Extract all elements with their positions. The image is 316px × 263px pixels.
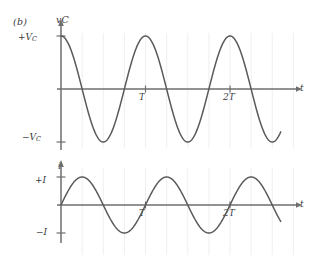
figure-panel-b: (b) vC +VC −VC t T 2T i +I −I t T 2T bbox=[0, 0, 316, 263]
chart-current bbox=[0, 0, 316, 263]
